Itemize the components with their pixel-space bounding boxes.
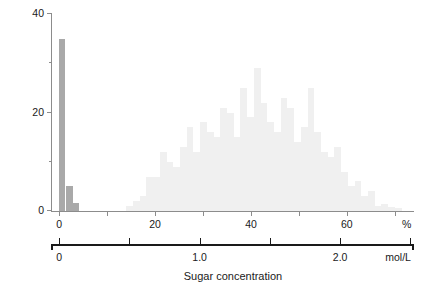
x-axis-title: Sugar concentration bbox=[184, 270, 282, 282]
x-tick-percent-label: 60 bbox=[341, 218, 353, 230]
x-tick-percent bbox=[299, 211, 300, 216]
histogram-bar bbox=[294, 142, 301, 211]
histogram-bar bbox=[227, 113, 234, 212]
y-tick bbox=[49, 62, 52, 63]
histogram-bar bbox=[381, 204, 388, 211]
histogram-bar bbox=[287, 108, 294, 211]
x-tick-molar bbox=[410, 238, 411, 244]
histogram-bar bbox=[73, 203, 80, 211]
x-tick-percent bbox=[155, 211, 156, 216]
histogram-bar bbox=[133, 201, 140, 211]
histogram-bar bbox=[240, 88, 247, 211]
histogram-bar bbox=[180, 147, 187, 211]
bar-group bbox=[52, 14, 414, 211]
histogram-bar bbox=[187, 127, 194, 211]
x-tick-percent-label: 0 bbox=[56, 218, 62, 230]
histogram-bar bbox=[193, 152, 200, 211]
histogram-bar bbox=[200, 122, 207, 211]
histogram-bar bbox=[328, 157, 335, 211]
histogram-bar bbox=[308, 88, 315, 211]
histogram-bar bbox=[234, 137, 241, 211]
x-tick-molar bbox=[129, 238, 130, 244]
histogram-bar bbox=[59, 39, 66, 211]
x-axis-molar-unit: mol/L bbox=[385, 251, 411, 263]
x-axis-percent-unit: % bbox=[402, 218, 411, 230]
y-tick bbox=[49, 161, 52, 162]
x-tick-percent-label: 40 bbox=[245, 218, 257, 230]
histogram-bar bbox=[254, 68, 261, 211]
y-tick-label: 0 bbox=[4, 205, 44, 216]
x-axis-molar-line bbox=[51, 244, 414, 246]
x-axis-molar-cap-right bbox=[412, 244, 414, 250]
histogram-bar bbox=[274, 132, 281, 211]
histogram-bar bbox=[314, 132, 321, 211]
histogram-bar bbox=[348, 186, 355, 211]
x-tick-molar-label: 1.0 bbox=[192, 251, 207, 263]
x-tick-percent bbox=[203, 211, 204, 216]
x-axis-molar-cap-left bbox=[51, 244, 53, 250]
histogram-bar bbox=[247, 117, 254, 211]
histogram-bar bbox=[173, 167, 180, 211]
x-tick-molar bbox=[340, 238, 341, 244]
histogram-bar bbox=[281, 98, 288, 211]
x-tick-percent-label: 20 bbox=[149, 218, 161, 230]
histogram-bar bbox=[261, 103, 268, 211]
x-tick-molar-label: 2.0 bbox=[333, 251, 348, 263]
histogram-bar bbox=[321, 152, 328, 211]
figure-histogram: Number of loads 02040 0204060 % 01.02.0 … bbox=[0, 0, 433, 295]
histogram-bar bbox=[146, 177, 153, 211]
x-axis-percent-line bbox=[51, 211, 414, 212]
x-tick-molar-label: 0 bbox=[56, 251, 62, 263]
histogram-bar bbox=[207, 132, 214, 211]
plot-area bbox=[52, 14, 414, 211]
histogram-bar bbox=[140, 196, 147, 211]
histogram-bar bbox=[167, 162, 174, 211]
x-tick-percent bbox=[107, 211, 108, 216]
y-tick-label: 20 bbox=[4, 107, 44, 118]
x-tick-percent bbox=[251, 211, 252, 216]
histogram-bar bbox=[214, 137, 221, 211]
histogram-bar bbox=[368, 191, 375, 211]
histogram-bar bbox=[334, 147, 341, 211]
histogram-bar bbox=[160, 152, 167, 211]
x-tick-percent bbox=[395, 211, 396, 216]
y-tick bbox=[47, 13, 52, 14]
x-tick-molar bbox=[59, 238, 60, 244]
y-tick-label: 40 bbox=[4, 8, 44, 19]
x-tick-percent bbox=[59, 211, 60, 216]
histogram-bar bbox=[267, 122, 274, 211]
histogram-bar bbox=[220, 108, 227, 211]
histogram-bar bbox=[301, 127, 308, 211]
x-tick-percent bbox=[347, 211, 348, 216]
histogram-bar bbox=[66, 186, 73, 211]
y-tick bbox=[47, 112, 52, 113]
x-tick-molar bbox=[270, 238, 271, 244]
histogram-bar bbox=[341, 172, 348, 211]
histogram-bar bbox=[361, 196, 368, 211]
histogram-bar bbox=[153, 177, 160, 211]
histogram-bar bbox=[355, 181, 362, 211]
x-tick-molar bbox=[200, 238, 201, 244]
